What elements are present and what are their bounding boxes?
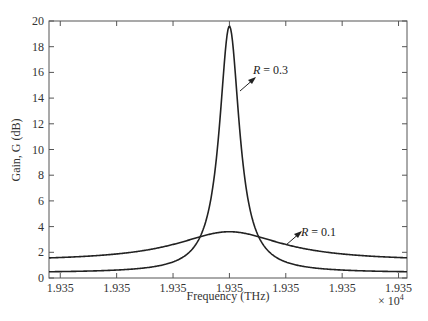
x-tick-label: 1.935: [329, 281, 356, 295]
y-tick-label: 6: [38, 194, 44, 208]
y-tick-label: 10: [32, 143, 44, 157]
x-tick-label: 1.935: [47, 281, 74, 295]
y-tick-label: 20: [32, 14, 44, 28]
curve-r01: [49, 232, 407, 258]
y-tick-label: 16: [32, 65, 44, 79]
x-axis-multiplier: × 104: [378, 293, 404, 308]
y-axis-label: Gain, G (dB): [9, 119, 23, 182]
y-tick-label: 8: [38, 168, 44, 182]
x-tick-label: 1.935: [385, 281, 412, 295]
annotation-r03: R = 0.3: [240, 63, 288, 91]
x-tick-label: 1.935: [103, 281, 130, 295]
curve-r03: [49, 26, 407, 271]
y-tick-label: 18: [32, 40, 44, 54]
y-axis-ticks: 02468101214161820: [32, 14, 407, 285]
y-tick-label: 14: [32, 91, 44, 105]
x-tick-label: 1.935: [272, 281, 299, 295]
x-tick-label: 1.935: [160, 281, 187, 295]
gain-vs-frequency-chart: 02468101214161820 1.9351.9351.9351.9351.…: [0, 0, 428, 321]
y-tick-label: 2: [38, 245, 44, 259]
x-axis-label: Frequency (THz): [187, 289, 270, 303]
svg-text:R = 0.3: R = 0.3: [252, 63, 288, 77]
y-tick-label: 4: [38, 220, 44, 234]
annotation-r01: R = 0.1: [286, 225, 336, 245]
svg-text:R = 0.1: R = 0.1: [300, 225, 336, 239]
plot-frame: [49, 21, 407, 278]
curves: [49, 26, 407, 271]
y-tick-label: 12: [32, 117, 44, 131]
x-axis-ticks: 1.9351.9351.9351.9351.9351.9351.935: [47, 21, 412, 295]
y-tick-label: 0: [38, 271, 44, 285]
